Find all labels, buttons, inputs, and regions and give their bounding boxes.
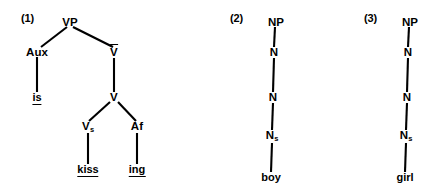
tree-2-edges — [228, 0, 338, 195]
tree-1-node-v-bar: V — [110, 46, 118, 58]
tree-1-node-aux-label: Aux — [26, 46, 48, 58]
edge-ns-boy — [271, 143, 272, 172]
tree-1-node-v-bar-label: V — [110, 46, 118, 58]
tree-1-node-aux: Aux — [26, 46, 48, 58]
tree-2-node-n2-label: N — [269, 91, 277, 103]
tree-1-terminal-is: is — [32, 91, 41, 105]
tree-1-terminal-kiss: kiss — [77, 163, 98, 177]
edge-n1-n2 — [407, 58, 408, 92]
edge-np-n1 — [408, 27, 409, 47]
tree-2-number: (2) — [230, 12, 243, 24]
tree-3-node-n1-label: N — [404, 46, 412, 58]
tree-2-node-n1-label: N — [270, 46, 278, 58]
tree-2-node-np: NP — [268, 16, 284, 28]
tree-1-terminal-ing: ing — [129, 163, 146, 177]
tree-3: (3) NP N N Ns girl — [338, 0, 442, 195]
tree-1-node-af: Af — [131, 120, 143, 132]
tree-1-node-vp-label: VP — [62, 16, 78, 28]
tree-3-node-n2-label: N — [403, 91, 411, 103]
tree-2-node-ns-label: N — [266, 129, 274, 141]
tree-2-node-ns-subscript: s — [274, 134, 278, 143]
tree-3-node-np-label: NP — [402, 16, 418, 28]
tree-1-node-vp: VP — [62, 16, 78, 28]
edge-ns-girl — [405, 143, 406, 172]
tree-2-node-np-label: NP — [268, 16, 284, 28]
tree-3-terminal-girl: girl — [396, 171, 413, 183]
tree-1: (1) VP Aux V V Vs Af is kiss ing — [0, 0, 175, 195]
tree-2-terminal-boy: boy — [261, 171, 281, 183]
tree-3-node-np: NP — [402, 16, 418, 28]
edge-n1-n2 — [273, 58, 274, 92]
tree-1-node-vs: Vs — [82, 120, 94, 132]
tree-1-node-af-label: Af — [131, 120, 143, 132]
tree-1-node-vs-subscript: s — [90, 125, 94, 134]
tree-3-node-n1: N — [404, 46, 412, 58]
tree-2: (2) NP N N Ns boy — [228, 0, 338, 195]
tree-2-node-ns: Ns — [266, 129, 279, 141]
tree-1-number: (1) — [21, 12, 34, 24]
edge-v-vs — [89, 102, 110, 121]
overbar-icon — [110, 44, 118, 45]
tree-3-node-ns-subscript: s — [408, 134, 412, 143]
tree-3-node-ns: Ns — [400, 129, 413, 141]
tree-3-node-ns-label: N — [400, 129, 408, 141]
tree-1-node-v-label: V — [110, 91, 118, 103]
tree-1-node-vs-label: V — [82, 120, 90, 132]
tree-3-edges — [338, 0, 442, 195]
tree-2-node-n2: N — [269, 91, 277, 103]
edge-n2-ns — [272, 103, 273, 130]
edge-vp-aux — [41, 27, 67, 47]
syntax-tree-figure: (1) VP Aux V V Vs Af is kiss ing — [0, 0, 442, 195]
edge-n2-ns — [406, 103, 407, 130]
tree-1-node-v: V — [110, 91, 118, 103]
edge-v-af — [118, 102, 136, 121]
tree-2-node-n1: N — [270, 46, 278, 58]
edge-vp-vbar — [73, 27, 113, 47]
tree-3-number: (3) — [364, 12, 377, 24]
tree-3-node-n2: N — [403, 91, 411, 103]
edge-np-n1 — [274, 27, 275, 47]
